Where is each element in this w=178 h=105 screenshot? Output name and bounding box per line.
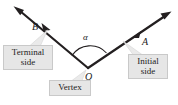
initial-callout-leader: [123, 41, 142, 55]
point-label-a: A: [142, 37, 148, 47]
angle-diagram-figure: B A O α Terminal side Initial side Verte…: [0, 0, 178, 105]
callout-initial-side: Initial side: [128, 54, 168, 79]
angle-arc: [72, 46, 107, 56]
point-label-b: B: [32, 22, 38, 32]
terminal-callout-leader: [30, 30, 48, 46]
vertex-callout-leader: [72, 70, 86, 81]
angle-label-alpha: α: [83, 33, 88, 42]
callout-vertex: Vertex: [49, 80, 91, 96]
callout-terminal-side: Terminal side: [3, 45, 53, 70]
